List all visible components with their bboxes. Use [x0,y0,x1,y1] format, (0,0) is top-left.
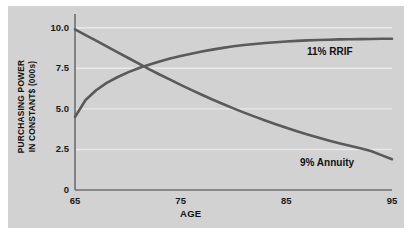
y-axis-title-line2: IN CONSTANT$ (000s) [26,47,37,167]
y-tick-label: 2.5 [35,143,69,154]
y-tick-label: 5.0 [35,103,69,114]
y-tick-label: 10.0 [35,22,69,33]
y-axis-title-line1: PURCHASING POWER [16,47,27,167]
x-axis-title: AGE [180,208,202,219]
series-label-rrif: 11% RRIF [307,46,353,57]
chart-figure: 10.07.55.02.50 65758595 PURCHASING POWER… [0,0,412,239]
x-tick-label: 85 [271,195,301,206]
x-tick-label: 75 [166,195,196,206]
x-tick-label: 95 [377,195,407,206]
y-axis-title: PURCHASING POWER IN CONSTANT$ (000s) [16,47,37,167]
x-tick-label: 65 [60,195,90,206]
y-tick-label: 7.5 [35,62,69,73]
series-label-annuity: 9% Annuity [300,157,354,168]
y-tick-label: 0 [35,184,69,195]
